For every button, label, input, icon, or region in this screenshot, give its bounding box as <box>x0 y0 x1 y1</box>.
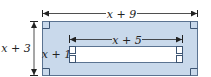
frame-diagram: x + 9 x + 3 x + 5 x + 1 <box>0 0 211 77</box>
inner-height-label: x + 1 <box>42 48 71 61</box>
inner-rectangle <box>70 47 183 63</box>
outer-height-dimension: x + 3 <box>1 22 38 76</box>
outer-width-label: x + 9 <box>107 8 136 21</box>
inner-width-label: x + 5 <box>112 34 141 47</box>
outer-width-dimension: x + 9 <box>43 8 198 21</box>
outer-height-label: x + 3 <box>1 42 30 55</box>
